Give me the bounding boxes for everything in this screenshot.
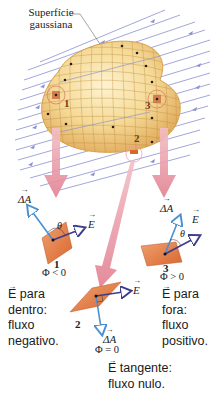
patch-3-field-vector: E xyxy=(192,213,199,225)
surface-label-line2: gaussiana xyxy=(26,18,76,30)
surface-label-leader xyxy=(72,14,100,44)
surface-label: Superfície gaussiana xyxy=(26,6,76,30)
caption-outward-line3: fluxo xyxy=(162,318,208,334)
surface-label-line1: Superfície xyxy=(26,6,76,18)
caption-inward-line3: fluxo xyxy=(8,318,59,334)
caption-outward-vector: E xyxy=(162,287,170,303)
patch-1-angle-label: θ xyxy=(57,220,62,231)
caption-outward-flux: E para fora: fluxo positivo. xyxy=(162,287,208,349)
patch-1-flux: Φ < 0 xyxy=(42,267,66,278)
caption-inward-flux: E para dentro: fluxo negativo. xyxy=(8,287,59,349)
patch-1-field-label: E xyxy=(88,218,95,230)
caption-inward-line1: para xyxy=(16,287,45,301)
patch-2-number: 2 xyxy=(75,318,81,330)
caption-outward-line4: positivo. xyxy=(162,334,208,350)
caption-inward-line4: negativo. xyxy=(8,334,59,350)
patch-2-field-label: E xyxy=(133,284,140,296)
caption-tangent-vector: E xyxy=(108,361,116,377)
caption-tangent-line1: tangente: xyxy=(116,361,172,375)
patch-1-field-vector: E xyxy=(88,218,95,230)
patch-1-diagram xyxy=(28,206,84,264)
patch-3-angle-label: θ xyxy=(180,228,185,239)
patch-2-field-vector: E xyxy=(133,284,140,296)
caption-outward-line1: para xyxy=(170,287,199,301)
caption-outward-line2: fora: xyxy=(162,303,208,319)
surface-marker-1: 1 xyxy=(64,97,70,109)
caption-tangent-flux: E tangente: fluxo nulo. xyxy=(108,361,172,392)
caption-inward-line2: dentro: xyxy=(8,303,59,319)
patch-3-normal-vector: ΔA xyxy=(160,202,173,214)
caption-tangent-line2: fluxo nulo. xyxy=(108,377,172,393)
caption-inward-vector: E xyxy=(8,287,16,303)
patch-3-field-label: E xyxy=(192,213,199,225)
surface-marker-3: 3 xyxy=(145,99,151,111)
patch-1-normal-vector: ΔA xyxy=(18,193,31,205)
patch-1-normal-label: ΔA xyxy=(18,193,31,205)
patch-3-diagram xyxy=(141,216,199,266)
surface-marker-2: 2 xyxy=(134,132,140,144)
patch-3-normal-label: ΔA xyxy=(160,202,173,214)
